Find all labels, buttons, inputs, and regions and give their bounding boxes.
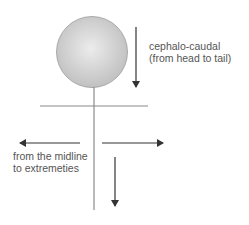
extremities-label: to extremeties (13, 162, 79, 174)
midline-label: from the midline (13, 150, 88, 162)
cephalo-caudal-sublabel: (from head to tail) (149, 52, 231, 64)
cephalo-caudal-label: cephalo-caudal (149, 40, 220, 52)
head-circle (57, 17, 128, 88)
development-direction-diagram (0, 0, 249, 225)
